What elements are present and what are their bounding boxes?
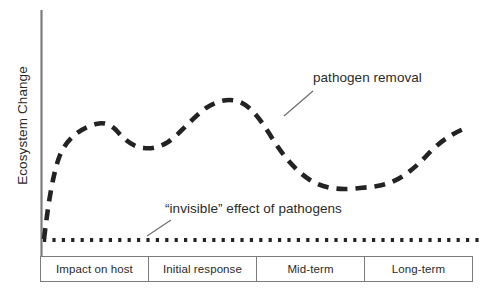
category-label: Long-term [392,263,445,275]
category-cell-initial-response: Initial response [149,257,257,281]
y-axis-title: Ecosystem Change [15,41,30,211]
ecosystem-change-figure: Ecosystem Change pathogen removal “invis… [0,0,493,299]
category-cell-long-term: Long-term [365,257,472,281]
category-cell-mid-term: Mid-term [257,257,365,281]
leader-line-pathogen-removal [284,91,313,116]
category-label: Mid-term [287,263,333,275]
category-axis: Impact on host Initial response Mid-term… [40,256,473,282]
category-cell-impact-on-host: Impact on host [41,257,149,281]
annotation-pathogen-removal: pathogen removal [313,70,422,85]
category-label: Initial response [163,263,242,275]
leader-line-invisible-effect [147,220,171,236]
series-pathogen-removal [44,100,468,239]
category-label: Impact on host [56,263,133,275]
annotation-invisible-effect: “invisible” effect of pathogens [165,201,342,216]
chart-plot-area [0,0,493,299]
